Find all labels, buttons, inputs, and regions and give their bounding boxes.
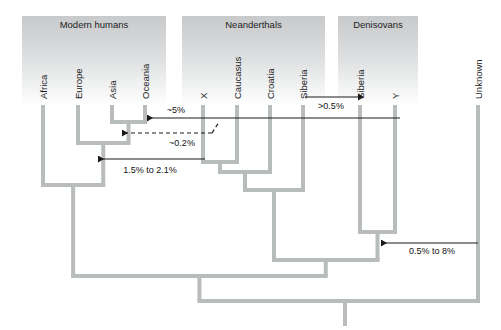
group-label-modern-humans: Modern humans (60, 19, 129, 30)
tip-label-oceania: Oceania (140, 63, 151, 99)
tip-label-caucasus: Caucasus (232, 57, 243, 99)
tip-label-unknown: Unknown (473, 59, 484, 99)
gene-flow-label-flow-02: ~0.2% (169, 138, 195, 148)
tip-label-africa: Africa (38, 74, 49, 99)
tip-label-croatia: Croatia (265, 68, 276, 99)
gene-flow-label-flow-05-8: 0.5% to 8% (409, 246, 455, 256)
diagram-canvas: ~5%~0.2%1.5% to 2.1%>0.5%0.5% to 8% Afri… (0, 0, 501, 330)
gene-flow-label-flow-15-21: 1.5% to 2.1% (123, 165, 177, 175)
tip-label-denis-siberia: Siberia (355, 69, 366, 99)
tip-label-neander-siberia: Siberia (298, 69, 309, 99)
gene-flow-label-flow-5: ~5% (167, 105, 185, 115)
tip-label-asia: Asia (107, 80, 118, 99)
tip-label-europe: Europe (73, 68, 84, 99)
group-label-denisovans: Denisovans (353, 19, 403, 30)
tree-branches (41, 105, 480, 326)
tip-label-denis-y: Y (390, 92, 401, 99)
tip-label-neander-x: X (198, 92, 209, 99)
gene-flow-arrows: ~5%~0.2%1.5% to 2.1%>0.5%0.5% to 8% (98, 97, 478, 256)
group-label-neanderthals: Neanderthals (225, 19, 282, 30)
gene-flow-connector-02 (212, 122, 219, 133)
gene-flow-label-flow-05: >0.5% (318, 101, 344, 111)
phylogenetic-tree-svg: ~5%~0.2%1.5% to 2.1%>0.5%0.5% to 8% Afri… (0, 0, 501, 330)
